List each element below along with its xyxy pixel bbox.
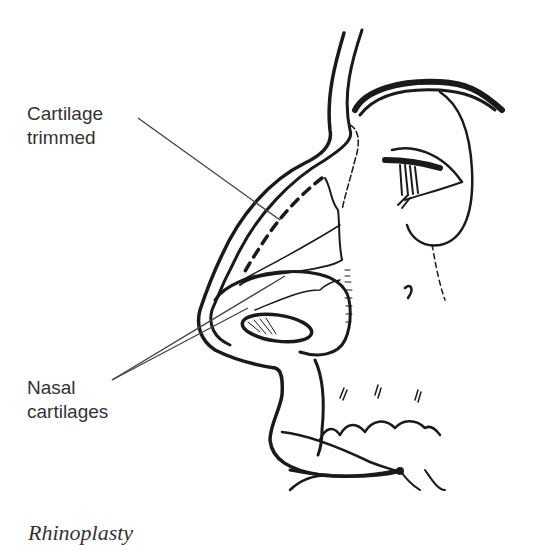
upper-cartilage-outline (240, 178, 342, 285)
nostril (241, 310, 314, 345)
teeth (320, 421, 440, 440)
cheek-line (432, 245, 445, 300)
figure-caption: Rhinoplasty (28, 520, 133, 546)
leader-line-cartilage-trimmed (138, 118, 280, 220)
label-line: cartilages (27, 400, 108, 424)
eyebrow (355, 82, 502, 110)
label-line: Cartilage (27, 102, 103, 126)
eye-lashes (385, 160, 440, 168)
label-line: Nasal (27, 376, 108, 400)
lower-lip-curve (290, 475, 330, 490)
upper-lip (282, 432, 400, 472)
label-line: trimmed (27, 126, 103, 150)
label-cartilage-trimmed: Cartilage trimmed (27, 102, 103, 150)
nose-outer-contour (199, 33, 400, 476)
rhinoplasty-illustration (0, 0, 537, 551)
label-nasal-cartilages: Nasal cartilages (27, 376, 108, 424)
